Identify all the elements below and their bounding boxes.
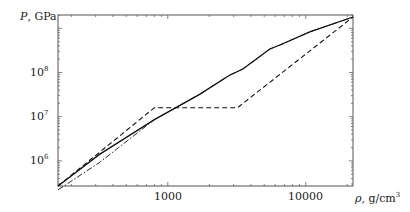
y-tick-label-1e7: 107	[30, 110, 48, 123]
x-axis-label: ρ, g/cm3	[355, 192, 400, 205]
series-solid	[58, 17, 353, 186]
y-axis-label: P, GPa	[20, 10, 57, 23]
series-dashed	[58, 17, 353, 186]
series-dash-dot	[58, 17, 353, 190]
y-tick-label-1e8: 108	[30, 66, 48, 79]
series-lines	[58, 17, 353, 190]
x-tick-label-10000: 10000	[288, 190, 323, 203]
x-tick-label-1000: 1000	[154, 190, 182, 203]
chart-plot	[0, 0, 410, 212]
y-tick-label-1e6: 106	[30, 154, 48, 167]
plot-frame	[58, 15, 353, 186]
axis-ticks	[58, 15, 353, 186]
